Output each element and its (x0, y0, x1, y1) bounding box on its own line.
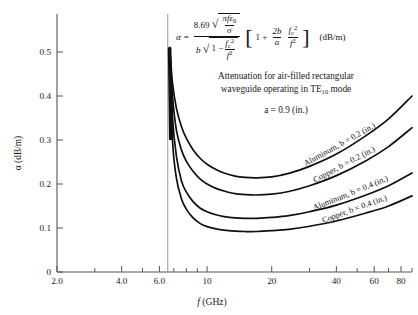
x-axis-title-group: f (GHz) (197, 296, 227, 308)
figure-attenuation-chart: 00.10.20.30.40.5 2.04.06.01020406080 Alu… (0, 0, 418, 315)
formula-den-inner-frac: fc2 f2 (223, 38, 236, 61)
chart-notes: Attenuation for air-filled rectangular w… (186, 70, 386, 115)
radical-sign-icon: √ (212, 13, 219, 35)
formula-a: a (273, 37, 282, 47)
formula-alpha: α (176, 32, 181, 42)
radical-sign-icon-2: √ (203, 37, 210, 61)
y-axis-title: α (dB/m) (13, 123, 23, 183)
formula-bracket-f-sup: 2 (292, 37, 295, 44)
x-tick-label-group: 2.04.06.01020406080 (51, 276, 406, 286)
x-axis-title: f (GHz) (197, 296, 227, 308)
formula-den-f2: f2 (225, 49, 235, 60)
x-tick-label: 2.0 (51, 276, 63, 286)
notes-line-2: waveguide operating in TE10 mode (186, 83, 386, 97)
x-tick-label: 10 (202, 276, 212, 286)
formula-den-radicand: 1 − fc2 f2 (209, 37, 238, 61)
formula-bracket-f2: f2 (288, 37, 298, 48)
x-tick-label: 4.0 (116, 276, 128, 286)
formula-units: (dB/m) (320, 32, 346, 42)
formula-2b: 2b (270, 27, 283, 36)
formula-num-inner-frac: πfε0 σ (220, 14, 238, 35)
formula-numerator-sqrt: √ πfε0 σ (212, 13, 240, 35)
y-tick-label: 0.5 (40, 47, 52, 57)
formula-sigma: σ (225, 25, 233, 35)
formula-fc2-over-f2: fc2 f2 (286, 25, 299, 48)
y-tick-label: 0.1 (40, 223, 52, 233)
formula-numerator-radicand: πfε0 σ (218, 13, 240, 35)
y-tick-group (57, 52, 63, 272)
formula-den-fc2: fc2 (223, 38, 236, 50)
formula-pi-f-eps: πfε (222, 13, 233, 23)
formula-2b-over-a: 2b a (270, 27, 283, 47)
y-tick-label: 0.4 (40, 91, 52, 101)
formula-one-plus: 1 + (256, 32, 268, 42)
formula-bracket-fc-sup: 2 (294, 24, 297, 31)
formula-coefficient: 8.69 (194, 20, 210, 30)
y-tick-label: 0.2 (40, 179, 52, 189)
formula-equals: = (184, 32, 189, 42)
x-tick-label: 60 (370, 276, 380, 286)
formula-b: b (196, 45, 201, 55)
y-tick-label: 0.3 (40, 135, 52, 145)
notes-line-2-post: mode (328, 84, 351, 94)
formula-one-minus: 1 − (211, 44, 223, 53)
x-tick-label: 6.0 (154, 276, 166, 286)
notes-line-2-pre: waveguide operating in TE (221, 84, 322, 94)
parameter-a-note: a = 0.9 (in.) (186, 105, 386, 115)
formula-denominator: b √ 1 − fc2 f2 (194, 36, 240, 61)
formula-eps-sub: 0 (233, 17, 236, 24)
bracket-close: ] (302, 28, 309, 47)
x-tick-group (57, 266, 412, 272)
formula-main-fraction: 8.69 √ πfε0 σ b √ (192, 13, 242, 61)
formula-num-inner-top: πfε0 (220, 14, 238, 25)
bracket-open: [ (245, 28, 252, 47)
x-tick-label: 20 (267, 276, 277, 286)
formula-numerator: 8.69 √ πfε0 σ (192, 13, 242, 35)
formula-fc-sup: 2 (231, 37, 234, 44)
formula-denominator-sqrt: √ 1 − fc2 f2 (203, 37, 238, 61)
notes-line-1: Attenuation for air-filled rectangular (186, 70, 386, 83)
formula-bracket-fc2: fc2 (286, 25, 299, 37)
x-tick-label: 40 (332, 276, 342, 286)
formula-f-sup: 2 (229, 49, 232, 56)
attenuation-formula: α = 8.69 √ πfε0 σ (176, 8, 412, 66)
y-tick-label-group: 00.10.20.30.40.5 (40, 47, 52, 277)
x-tick-label: 80 (396, 276, 406, 286)
